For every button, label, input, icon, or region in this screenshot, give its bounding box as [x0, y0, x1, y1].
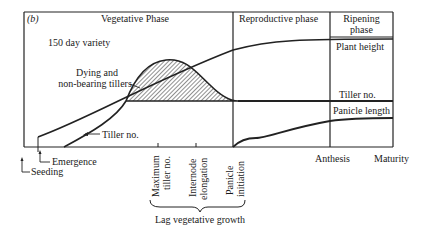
maturity-label: Maturity [374, 153, 409, 164]
phase-ripening-1: Ripening [330, 13, 393, 24]
panicle-init-label-1: Panicle [225, 166, 235, 195]
tiller-curve [64, 101, 126, 147]
brace-label: Lag vegetative growth [140, 214, 260, 225]
internode-label-1: Internode [188, 159, 198, 197]
panicle-length-label: Panicle length [333, 105, 390, 116]
dying-tillers-area [126, 60, 238, 101]
max-tiller-label-2: tiller no. [162, 156, 172, 190]
dying-label-2: non-bearing tillers [50, 78, 140, 89]
max-tiller-label-1: Maximum [151, 155, 161, 197]
panel-label: (b) [27, 13, 39, 24]
panicle-length-curve [233, 118, 393, 147]
dying-label-1: Dying and [52, 67, 142, 78]
phase-reproductive: Reproductive phase [239, 13, 318, 24]
variety-label: 150 day variety [48, 37, 110, 48]
brace [150, 200, 245, 212]
tiller-label-right: Tiller no. [339, 89, 376, 100]
tiller-label-left: Tiller no. [102, 129, 139, 140]
seeding-label: Seeding [31, 166, 63, 177]
anthesis-label: Anthesis [315, 153, 350, 164]
phase-vegetative: Vegetative Phase [80, 13, 190, 24]
internode-label-2: elongation [199, 158, 209, 200]
plant-height-label: Plant height [336, 41, 384, 52]
phase-ripening-2: phase [330, 24, 393, 35]
panicle-init-label-2: initiation [236, 161, 246, 197]
